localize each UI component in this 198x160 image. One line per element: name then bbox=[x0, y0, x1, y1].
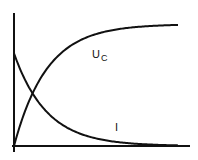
series-label-i: I bbox=[115, 121, 118, 133]
series-label-uc-subscript: C bbox=[101, 53, 108, 63]
rc-charging-chart: UC I bbox=[0, 0, 198, 160]
series-line-uc bbox=[14, 25, 178, 146]
series-label-uc: UC bbox=[92, 48, 108, 63]
series-line-i bbox=[14, 53, 178, 145]
